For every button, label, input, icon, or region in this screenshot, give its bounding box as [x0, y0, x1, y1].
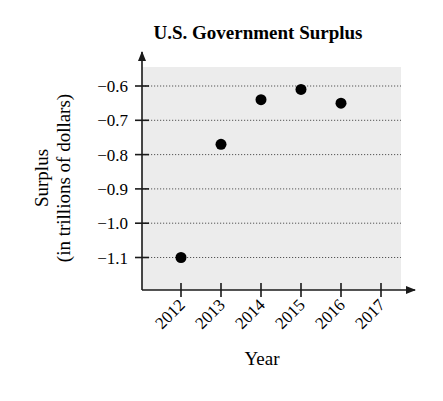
x-tick-label: 2016: [311, 295, 348, 332]
scatter-chart: U.S. Government Surplus −0.6−0.7−0.8−0.9…: [0, 0, 443, 401]
y-tick-label: −0.6: [97, 77, 128, 96]
x-tick-label: 2013: [191, 295, 228, 332]
data-point: [296, 84, 307, 95]
data-point: [256, 94, 267, 105]
x-tick-label: 2017: [351, 295, 389, 333]
y-tick-label: −1.1: [97, 249, 128, 268]
y-tick-label: −0.9: [97, 180, 128, 199]
y-axis-label: Surplus: [31, 149, 52, 207]
y-tick-label: −0.7: [97, 111, 128, 130]
y-axis-sublabel: (in trillions of dollars): [53, 94, 75, 262]
x-axis-label: Year: [244, 348, 280, 369]
data-point: [336, 98, 347, 109]
y-tick-label: −0.8: [97, 146, 128, 165]
x-tick-label: 2012: [151, 295, 188, 332]
data-point: [216, 139, 227, 150]
chart-title: U.S. Government Surplus: [153, 22, 362, 43]
x-tick-label: 2015: [271, 295, 308, 332]
y-tick-label: −1.0: [97, 214, 128, 233]
x-tick-label: 2014: [231, 295, 269, 333]
data-point: [176, 252, 187, 263]
